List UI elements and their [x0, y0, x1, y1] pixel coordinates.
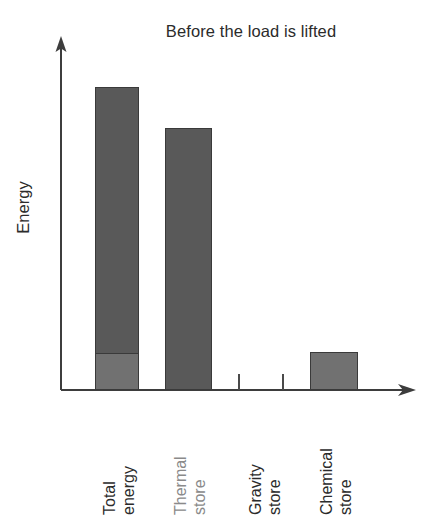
- x-tick-label-chemical-store: Chemical store: [317, 448, 355, 515]
- bar-thermal-store: [165, 128, 212, 390]
- x-tick-label-gravity-store-line1: Gravity: [247, 464, 264, 515]
- x-tick-label-thermal-store-line2: store: [190, 456, 209, 515]
- x-tick-label-chemical-store-line1: Chemical: [318, 448, 335, 515]
- bar-chemical-store: [310, 352, 358, 390]
- x-tick-label-total-energy-line1: Total: [101, 481, 118, 515]
- x-tick-label-thermal-store: Thermal store: [171, 456, 209, 515]
- x-tick-label-total-energy-line2: energy: [119, 466, 138, 515]
- x-tick-label-thermal-store-line1: Thermal: [172, 456, 189, 515]
- x-tick-label-chemical-store-line2: store: [336, 448, 355, 515]
- bar-total-energy-lower-segment: [95, 353, 139, 390]
- bar-total-energy-upper-segment: [95, 87, 139, 354]
- chart-axes: [0, 0, 444, 526]
- x-tick-label-gravity-store: Gravity store: [246, 464, 284, 515]
- bar-gravity-store-right-tick: [282, 374, 284, 390]
- bar-gravity-store-left-tick: [238, 374, 240, 390]
- x-tick-label-gravity-store-line2: store: [265, 464, 284, 515]
- plot-area: Energy Total energy Thermal store: [0, 0, 444, 526]
- x-tick-label-total-energy: Total energy: [100, 466, 138, 515]
- chart-figure: Before the load is lifted Energy Total e…: [0, 0, 444, 526]
